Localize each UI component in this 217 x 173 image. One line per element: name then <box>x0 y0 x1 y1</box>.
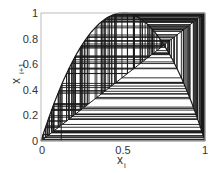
y-tick-label: 0.8 <box>23 33 38 45</box>
x-tick-label: 0 <box>39 144 45 156</box>
plot-area <box>41 13 205 141</box>
y-tick-label: 1 <box>32 7 38 19</box>
svg-text:x: x <box>117 153 123 167</box>
x-axis-ticks: 00.51 <box>39 144 208 156</box>
svg-text:i+1: i+1 <box>17 63 26 74</box>
cobweb-chart: 00.20.40.60.81 00.51 x i+1 x i <box>0 0 217 173</box>
y-axis-ticks: 00.20.40.60.81 <box>23 7 38 147</box>
y-tick-label: 0.4 <box>23 84 38 96</box>
svg-text:i: i <box>124 161 126 170</box>
x-tick-label: 1 <box>202 144 208 156</box>
y-axis-label: x i+1 <box>9 63 26 84</box>
y-tick-label: 0 <box>32 135 38 147</box>
y-tick-label: 0.2 <box>23 109 38 121</box>
svg-text:x: x <box>9 78 23 84</box>
